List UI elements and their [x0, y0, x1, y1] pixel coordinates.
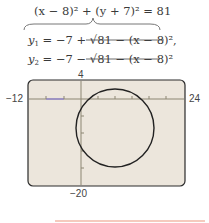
xmin-label: −12: [6, 93, 23, 104]
y1-equation: y1 = −7 + √81 − (x − 8)²,: [28, 33, 177, 48]
ymax-label: 4: [78, 69, 84, 80]
ymin-label: −20: [70, 188, 87, 199]
plot-area: [28, 80, 185, 186]
brace-icon: [24, 18, 160, 30]
xmax-label: 24: [189, 93, 200, 104]
y2-equation: y2 = −7 − √81 − (x − 8)²: [28, 52, 173, 67]
